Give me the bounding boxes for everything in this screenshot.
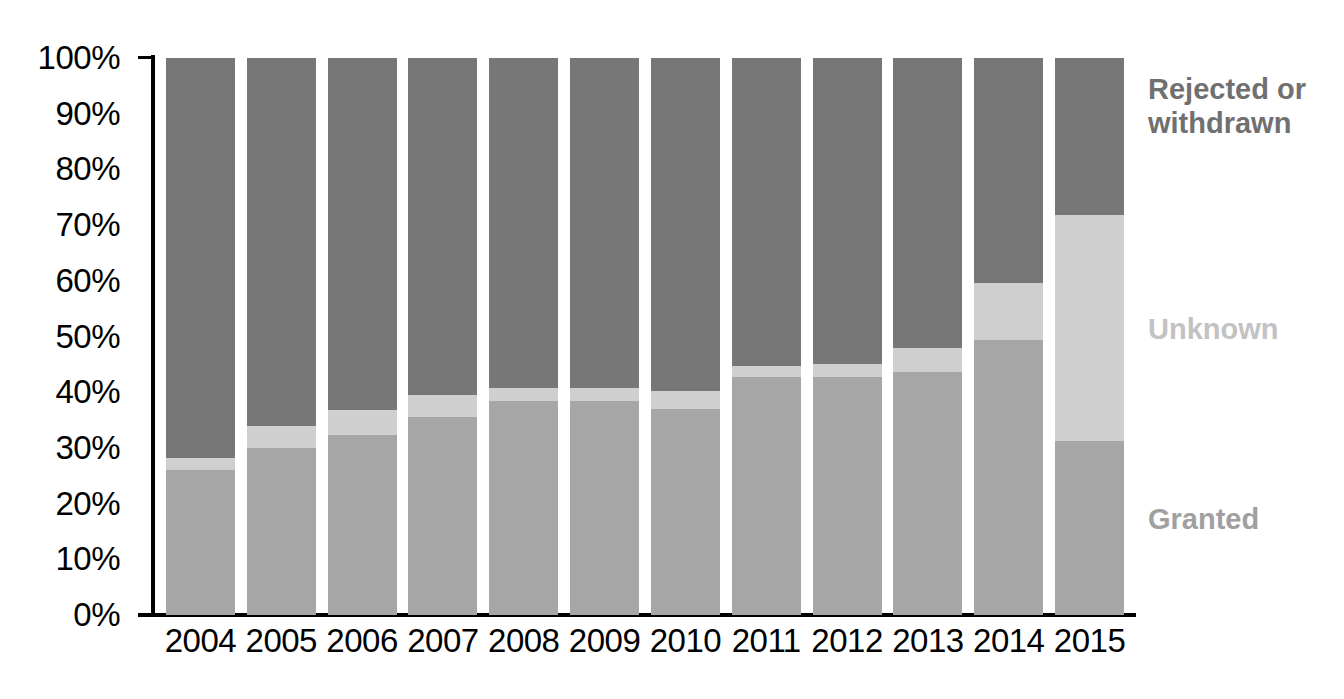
bar-segment-granted[interactable] — [570, 401, 639, 615]
x-tick-label: 2014 — [968, 622, 1049, 660]
bar-segment-unknown[interactable] — [893, 348, 962, 372]
bar-group[interactable] — [408, 58, 477, 615]
bar-segment-unknown[interactable] — [166, 458, 235, 470]
bar-segment-unknown[interactable] — [408, 395, 477, 417]
y-axis-top-tick — [138, 56, 155, 59]
y-tick-label: 100% — [38, 39, 120, 77]
x-tick-label: 2008 — [483, 622, 564, 660]
x-tick-label: 2005 — [241, 622, 322, 660]
bar-segment-unknown[interactable] — [974, 283, 1043, 340]
bar-segment-granted[interactable] — [328, 435, 397, 615]
bar-segment-unknown[interactable] — [813, 364, 882, 377]
bar-segment-granted[interactable] — [651, 409, 720, 615]
bar-group[interactable] — [166, 58, 235, 615]
y-tick-label: 10% — [55, 540, 120, 578]
bar-segment-granted[interactable] — [408, 417, 477, 615]
bar-segment-unknown[interactable] — [570, 388, 639, 400]
bar-segment-unknown[interactable] — [651, 391, 720, 409]
bar-group[interactable] — [1055, 58, 1124, 615]
bar-segment-unknown[interactable] — [1055, 215, 1124, 441]
y-tick-label: 60% — [55, 262, 120, 300]
chart-legend: Rejected or withdrawn Unknown Granted — [1148, 0, 1344, 699]
legend-label-rejected-line1: Rejected or — [1148, 72, 1306, 106]
bar-segment-unknown[interactable] — [328, 410, 397, 435]
y-tick-label: 20% — [55, 485, 120, 523]
x-tick-label: 2011 — [726, 622, 807, 660]
bar-group[interactable] — [974, 58, 1043, 615]
y-axis-line — [151, 55, 155, 617]
y-tick-label: 70% — [55, 206, 120, 244]
stacked-bar-chart: 0%10%20%30%40%50%60%70%80%90%100% 200420… — [0, 0, 1344, 699]
x-tick-label: 2004 — [160, 622, 241, 660]
bar-segment-rejected[interactable] — [1055, 58, 1124, 215]
bar-segment-granted[interactable] — [489, 401, 558, 615]
bar-segment-rejected[interactable] — [328, 58, 397, 410]
bar-segment-rejected[interactable] — [166, 58, 235, 458]
bar-group[interactable] — [813, 58, 882, 615]
bar-segment-granted[interactable] — [893, 372, 962, 615]
y-tick-label: 40% — [55, 373, 120, 411]
bar-group[interactable] — [328, 58, 397, 615]
y-axis: 0%10%20%30%40%50%60%70%80%90%100% — [0, 0, 138, 699]
bar-segment-rejected[interactable] — [893, 58, 962, 348]
legend-label-unknown: Unknown — [1148, 312, 1279, 346]
bar-group[interactable] — [247, 58, 316, 615]
x-tick-label: 2010 — [645, 622, 726, 660]
legend-label-granted: Granted — [1148, 502, 1259, 536]
bar-segment-rejected[interactable] — [974, 58, 1043, 283]
bar-segment-unknown[interactable] — [489, 388, 558, 401]
bar-segment-granted[interactable] — [1055, 441, 1124, 615]
x-tick-label: 2015 — [1049, 622, 1130, 660]
bar-segment-rejected[interactable] — [247, 58, 316, 426]
bar-group[interactable] — [570, 58, 639, 615]
x-tick-label: 2013 — [888, 622, 969, 660]
bar-segment-granted[interactable] — [974, 340, 1043, 615]
bar-segment-rejected[interactable] — [570, 58, 639, 388]
bar-group[interactable] — [732, 58, 801, 615]
legend-label-rejected-line2: withdrawn — [1148, 106, 1306, 140]
y-tick-label: 0% — [73, 596, 120, 634]
legend-item-rejected-or-withdrawn: Rejected or withdrawn — [1148, 72, 1306, 140]
bar-segment-rejected[interactable] — [813, 58, 882, 364]
bar-segment-rejected[interactable] — [408, 58, 477, 395]
y-tick-label: 80% — [55, 150, 120, 188]
y-tick-label: 50% — [55, 318, 120, 356]
bar-segment-rejected[interactable] — [489, 58, 558, 388]
bar-segment-rejected[interactable] — [651, 58, 720, 391]
x-tick-label: 2009 — [564, 622, 645, 660]
bar-segment-unknown[interactable] — [247, 426, 316, 448]
bar-group[interactable] — [651, 58, 720, 615]
x-tick-label: 2006 — [322, 622, 403, 660]
bar-segment-granted[interactable] — [247, 448, 316, 615]
bar-group[interactable] — [489, 58, 558, 615]
bar-segment-granted[interactable] — [732, 377, 801, 615]
bar-segment-granted[interactable] — [813, 377, 882, 615]
bar-segment-granted[interactable] — [166, 470, 235, 615]
x-tick-label: 2012 — [807, 622, 888, 660]
y-tick-label: 90% — [55, 95, 120, 133]
bar-segment-unknown[interactable] — [732, 366, 801, 377]
legend-item-granted: Granted — [1148, 502, 1259, 536]
x-axis: 2004200520062007200820092010201120122013… — [160, 622, 1130, 677]
legend-item-unknown: Unknown — [1148, 312, 1279, 346]
bar-segment-rejected[interactable] — [732, 58, 801, 366]
plot-area — [160, 58, 1130, 615]
y-tick-label: 30% — [55, 429, 120, 467]
bar-group[interactable] — [893, 58, 962, 615]
x-tick-label: 2007 — [403, 622, 484, 660]
